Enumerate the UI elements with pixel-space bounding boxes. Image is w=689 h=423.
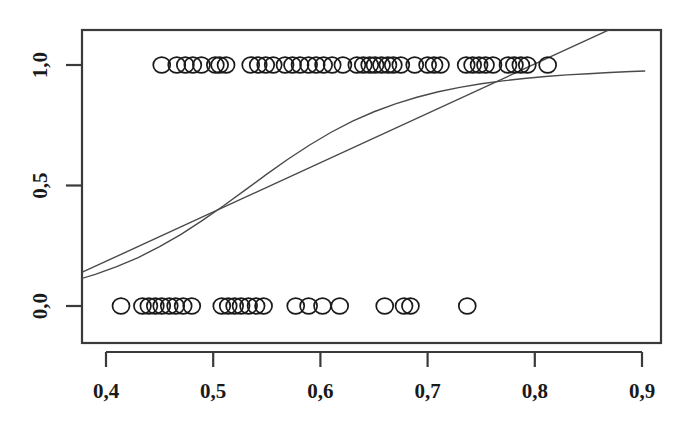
data-point-marker [284, 57, 301, 73]
x-tick-labels: 0,40,50,60,70,80,9 [93, 379, 655, 403]
data-point-marker [376, 298, 393, 314]
x-tick-label: 0,6 [307, 379, 333, 403]
logistic-regression-plot: 0,40,50,60,70,80,9 0,00,51,0 [0, 0, 689, 423]
y-axis [66, 65, 82, 306]
x-tick-label: 0,5 [200, 379, 226, 403]
logistic-fit [72, 71, 646, 281]
x-tick-group [106, 352, 642, 367]
x-tick-label: 0,8 [522, 379, 548, 403]
scatter-points-outcome-0 [113, 298, 476, 314]
chart-figure: 0,40,50,60,70,80,9 0,00,51,0 [0, 0, 689, 423]
x-tick-label: 0,4 [93, 379, 120, 403]
data-point-marker [331, 298, 348, 314]
y-tick-label: 0,0 [28, 293, 52, 319]
data-point-marker [113, 298, 130, 314]
data-point-marker [459, 298, 476, 314]
x-tick-label: 0,7 [414, 379, 440, 403]
data-point-marker [539, 57, 556, 73]
data-point-marker [308, 57, 325, 73]
y-tick-label: 1,0 [28, 52, 52, 78]
linear-fit [72, 13, 646, 277]
fitted-curves [72, 13, 646, 281]
x-axis [106, 352, 642, 367]
y-tick-labels: 0,00,51,0 [28, 52, 52, 319]
y-tick-group [66, 65, 82, 306]
plot-box-border [82, 30, 661, 343]
x-tick-label: 0,9 [629, 379, 655, 403]
scatter-points-outcome-1 [153, 57, 556, 73]
y-tick-label: 0,5 [28, 172, 52, 198]
